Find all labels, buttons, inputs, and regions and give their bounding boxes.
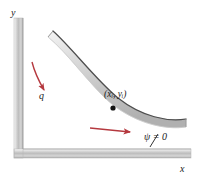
shell-band-body (48, 31, 186, 128)
boundary-condition-label: ψ = 0 (144, 131, 167, 142)
x-axis-bar (14, 149, 191, 158)
load-q-label: q (39, 90, 44, 101)
point-coordinate-label: (xᵢ, yᵢ) (104, 89, 127, 100)
engineering-figure: y x (xᵢ, yᵢ) q ψ = 0 (0, 0, 199, 178)
y-axis-bar (14, 18, 23, 158)
curved-load-arrow (32, 62, 44, 90)
straight-flow-arrow (90, 128, 130, 132)
x-axis-label: x (179, 163, 185, 174)
y-axis-label: y (10, 7, 16, 18)
point-marker (110, 105, 115, 110)
shell-group (48, 31, 186, 128)
figure-canvas: y x (xᵢ, yᵢ) q ψ = 0 (0, 0, 199, 178)
